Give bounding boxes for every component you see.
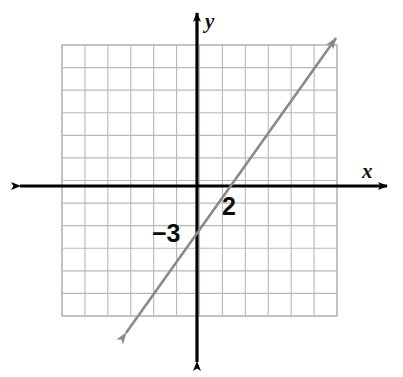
grid-lines — [62, 45, 337, 316]
coordinate-plane-figure: x y 2 −3 — [0, 0, 403, 377]
graph-canvas: x y 2 −3 — [0, 0, 403, 377]
y-intercept-label: −3 — [152, 219, 181, 247]
x-axis-label: x — [361, 159, 373, 183]
y-axis-label: y — [202, 9, 215, 33]
x-intercept-label: 2 — [222, 192, 236, 220]
